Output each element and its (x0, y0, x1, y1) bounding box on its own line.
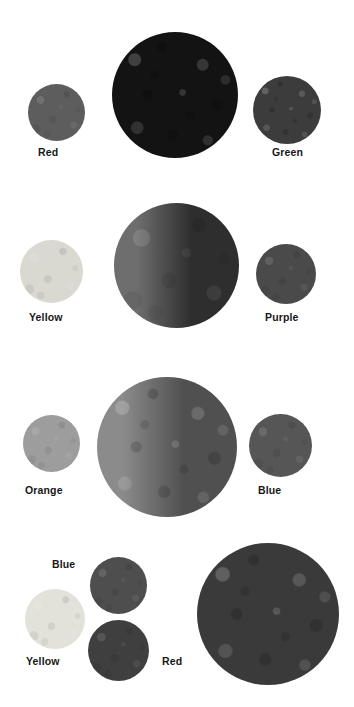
mix-swatch-row1 (112, 32, 238, 158)
label-red-1: Red (38, 146, 58, 158)
swatch-yellow-row4 (25, 589, 85, 649)
swatch-red-row1 (28, 84, 85, 141)
mix-swatch-row3 (97, 377, 237, 517)
color-mixing-figure: Red Green Yellow Purple Orange Blue Blue… (0, 0, 354, 707)
label-orange-3: Orange (25, 484, 63, 496)
label-yellow-4: Yellow (26, 655, 60, 667)
swatch-red-row4 (88, 620, 149, 681)
swatch-blue-row3 (249, 414, 312, 477)
label-blue-3: Blue (258, 484, 281, 496)
swatch-green-row1 (253, 76, 321, 144)
mix-swatch-row4 (197, 543, 339, 685)
label-green-1: Green (272, 146, 303, 158)
swatch-blue-row4 (90, 557, 147, 614)
label-blue-4: Blue (52, 558, 75, 570)
label-purple-2: Purple (265, 311, 299, 323)
label-red-4: Red (162, 655, 182, 667)
swatch-orange-row3 (23, 415, 80, 472)
swatch-yellow-row2 (20, 240, 83, 303)
swatch-purple-row2 (256, 244, 316, 304)
label-yellow-2: Yellow (29, 311, 63, 323)
mix-swatch-row2 (114, 203, 239, 328)
